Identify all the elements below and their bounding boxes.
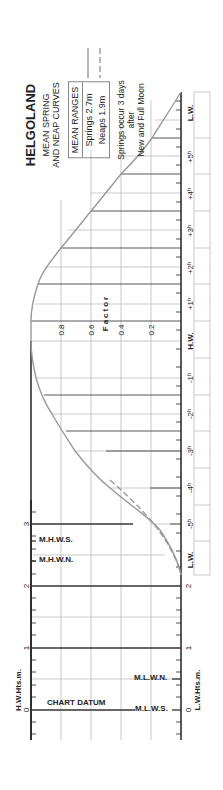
time-boxes [194,92,210,575]
hw-height-tick-2: 2 [22,584,31,588]
springs-range: Springs 2.7m [83,83,96,158]
subtitle-line-2: AND NEAP CURVES [51,82,61,168]
note-line-1: Springs occur 3 days [116,80,126,159]
time-label-lw-start: L.W. [186,552,195,568]
springs-note: Springs occur 3 days after New and Full … [116,80,146,159]
neaps-range: Neaps 1.9m [96,83,109,158]
diagram-title: HELGOLAND [23,84,38,166]
diagram-subtitle: MEAN SPRING AND NEAP CURVES [41,82,61,168]
time-label-plus4: +4ʰ [186,188,195,200]
hw-height-tick-3: 3 [22,522,31,526]
lw-height-tick-1: 1 [184,646,193,650]
time-label-lw-end: L.W. [186,105,195,121]
lw-height-axis-label: L.W.Hts.m. [193,670,202,711]
time-label-plus3: +3ʰ [186,225,195,237]
hw-height-tick-1: 1 [22,646,31,650]
half-hour-grid [31,120,181,679]
mlwn-label: M.L.W.N. [134,673,167,682]
mean-ranges-box: MEAN RANGES Springs 2.7m Neaps 1.9m [68,82,110,159]
time-label-minus1: -1ʰ [186,373,195,383]
factor-grid [61,100,151,740]
time-label-plus2: +2ʰ [186,262,195,274]
mhwn-label: M.H.W.N. [39,555,73,564]
subtitle-line-1: MEAN SPRING [41,82,51,168]
mlws-label: M.L.W.S. [135,704,168,713]
time-label-hw: H.W. [186,332,195,349]
note-line-3: New and Full Moon [136,80,146,159]
factor-tick-0.8: 0.8 [57,324,66,335]
hw-height-tick-0: 0 [22,708,31,712]
factor-tick-0.6: 0.6 [87,324,96,335]
factor-tick-0.4: 0.4 [117,324,126,335]
time-label-minus2: -2ʰ [186,409,195,419]
factor-tick-0.2: 0.2 [147,324,156,335]
mhws-label: M.H.W.S. [39,535,73,544]
factor-axis-label: Factor [101,295,110,331]
time-label-plus1: +1ʰ [186,298,195,310]
time-label-plus5: +5ʰ [186,151,195,163]
note-line-2: after [126,80,136,159]
hw-height-axis-label: H.W.Hts.m. [14,669,23,711]
time-label-minus4: -4ʰ [186,483,195,493]
time-label-minus3: -3ʰ [186,446,195,456]
lw-height-tick-2: 2 [184,584,193,588]
time-label-minus5: -5ʰ [186,519,195,529]
mean-ranges-header: MEAN RANGES [69,83,83,158]
lw-height-tick-0: 0 [184,708,193,712]
chart-datum-label: CHART DATUM [47,698,106,707]
